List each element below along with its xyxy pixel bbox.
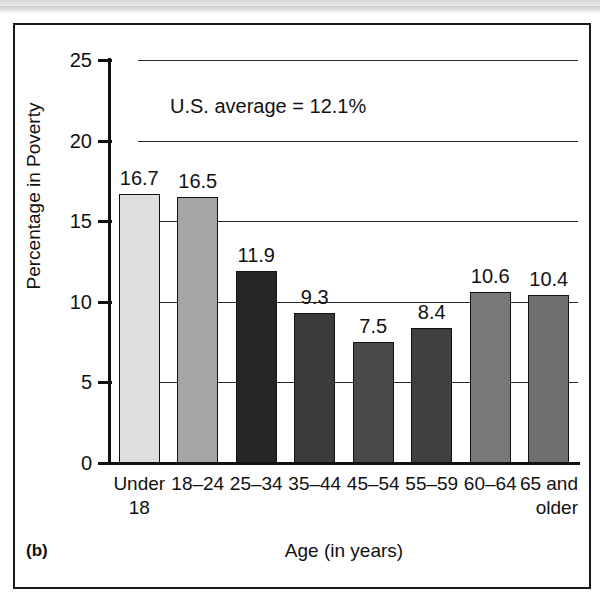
x-axis-title: Age (in years)	[110, 540, 578, 562]
y-axis-tick-label: 0	[52, 453, 92, 473]
bar	[528, 295, 569, 463]
bar	[353, 342, 394, 463]
bar	[236, 271, 277, 463]
scan-artifact-strip-top	[0, 0, 600, 6]
figure-page: 0510152025 Percentage in Poverty U.S. av…	[0, 0, 600, 593]
bar-series	[110, 60, 578, 463]
bar-value-label: 11.9	[226, 245, 286, 265]
panel-label: (b)	[26, 541, 48, 561]
plot-area	[110, 60, 578, 463]
y-axis-title: Percentage in Poverty	[23, 46, 45, 346]
bar-value-label: 10.6	[460, 266, 520, 286]
bar-value-label: 16.7	[109, 168, 169, 188]
y-axis-tick-label: 5	[52, 372, 92, 392]
bar	[294, 313, 335, 463]
bar	[470, 292, 511, 463]
y-axis-tick-label: 10	[52, 292, 92, 312]
x-axis-category-labels: Under1818–2425–3435–4445–5455–5960–6465 …	[110, 472, 578, 532]
y-axis-tick-label: 20	[52, 131, 92, 151]
bar-value-label: 16.5	[168, 171, 228, 191]
bar-value-label: 9.3	[285, 287, 345, 307]
x-axis-label-line2: 18	[99, 496, 180, 520]
bar	[119, 194, 160, 463]
bar-value-label: 8.4	[402, 302, 462, 322]
x-axis-label-line1: 65 and	[520, 473, 578, 494]
bar	[177, 197, 218, 463]
y-axis-tick-label: 25	[52, 50, 92, 70]
x-axis-category-label: 65 andolder	[506, 472, 579, 520]
x-axis-label-line2: older	[506, 496, 579, 520]
bar-value-label: 7.5	[343, 316, 403, 336]
y-axis-tick-label: 15	[52, 211, 92, 231]
bar-value-label: 10.4	[519, 269, 579, 289]
bar	[411, 328, 452, 463]
